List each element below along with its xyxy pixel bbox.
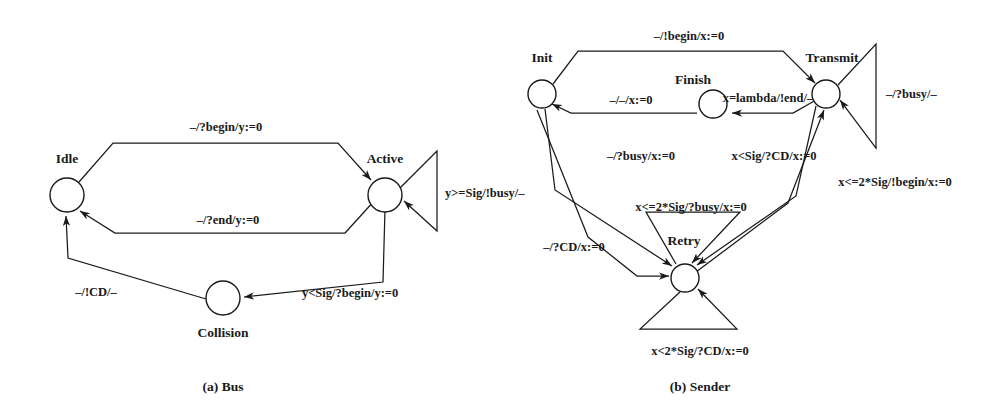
state-node-transmit[interactable] bbox=[812, 80, 840, 108]
edge-label-transmit-self-loop: –/?busy/– bbox=[885, 87, 937, 101]
state-node-init[interactable] bbox=[528, 80, 556, 108]
sender-automaton: Init Transmit Finish Retry –/!begin/x:=0… bbox=[528, 29, 952, 394]
edge-label-retry-self-cd: x<2*Sig/?CD/x:=0 bbox=[651, 344, 749, 358]
state-label-transmit: Transmit bbox=[806, 50, 860, 65]
edge-active-to-collision bbox=[244, 209, 385, 297]
edge-label-finish-to-init: –/–/x:=0 bbox=[608, 93, 652, 107]
state-node-idle[interactable] bbox=[50, 178, 84, 212]
edge-label-retry-to-transmit-begin: x<=2*Sig/!begin/x:=0 bbox=[838, 175, 952, 189]
figure-root: Idle Active Collision –/?begin/y:=0 –/?e… bbox=[0, 0, 981, 416]
edge-label-init-to-transmit: –/!begin/x:=0 bbox=[653, 29, 724, 43]
caption-sender: (b) Sender bbox=[670, 379, 730, 394]
bus-automaton: Idle Active Collision –/?begin/y:=0 –/?e… bbox=[50, 120, 525, 394]
edge-label-init-to-retry-busy: –/?busy/x:=0 bbox=[606, 149, 675, 163]
edge-label-transmit-to-finish: x=lambda/!end/– bbox=[723, 91, 814, 105]
state-node-active[interactable] bbox=[368, 178, 402, 212]
edge-label-active-to-idle: –/?end/y:=0 bbox=[196, 213, 260, 227]
state-label-idle: Idle bbox=[56, 151, 79, 166]
edge-label-active-to-collision: y<Sig/?begin/y:=0 bbox=[302, 286, 398, 300]
edge-label-retry-self-busy: x<=2*Sig/?busy/x:=0 bbox=[635, 200, 747, 214]
state-node-collision[interactable] bbox=[206, 281, 240, 315]
state-label-retry: Retry bbox=[668, 233, 701, 248]
automata-figure: Idle Active Collision –/?begin/y:=0 –/?e… bbox=[0, 0, 981, 416]
edge-label-idle-to-active: –/?begin/y:=0 bbox=[189, 120, 262, 134]
state-label-collision: Collision bbox=[197, 325, 249, 340]
edge-retry-to-transmit-begin bbox=[696, 110, 824, 272]
edge-transmit-to-retry-cd bbox=[697, 106, 816, 265]
edge-label-init-to-retry-cd: –/?CD/x:=0 bbox=[542, 240, 604, 254]
edge-retry-self-cd bbox=[640, 289, 737, 329]
caption-bus: (a) Bus bbox=[203, 379, 244, 394]
state-label-init: Init bbox=[531, 50, 553, 65]
edge-idle-to-active bbox=[79, 143, 371, 182]
edge-label-transmit-to-retry-cd: x<Sig/?CD/x:=0 bbox=[731, 149, 816, 163]
state-label-finish: Finish bbox=[675, 72, 712, 87]
state-node-retry[interactable] bbox=[671, 264, 699, 292]
edge-label-active-self-loop: y>=Sig/!busy/– bbox=[445, 186, 525, 200]
edge-active-self-loop bbox=[400, 151, 437, 231]
state-label-active: Active bbox=[367, 151, 404, 166]
edge-label-collision-to-idle: –/!CD/– bbox=[74, 285, 117, 299]
